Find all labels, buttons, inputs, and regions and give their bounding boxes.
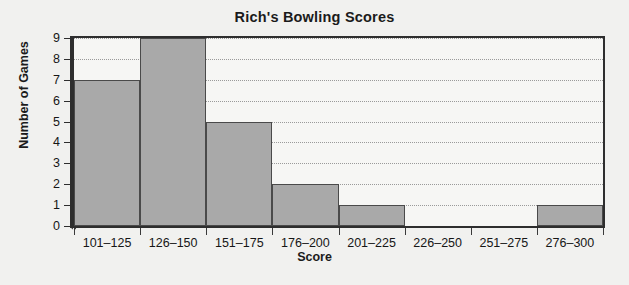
y-tick-mark bbox=[64, 38, 71, 39]
bar bbox=[537, 205, 603, 226]
bar bbox=[140, 38, 206, 226]
y-tick-label: 6 bbox=[42, 95, 60, 108]
x-tick-mark bbox=[405, 228, 406, 235]
x-tick-mark bbox=[74, 228, 75, 235]
y-tick-mark bbox=[64, 184, 71, 185]
y-tick-label: 5 bbox=[42, 116, 60, 129]
bowling-scores-histogram: Rich's Bowling Scores Number of Games 01… bbox=[0, 0, 629, 285]
x-tick-label: 276–300 bbox=[530, 236, 610, 250]
y-tick-mark bbox=[64, 59, 71, 60]
plot-area bbox=[72, 36, 605, 228]
x-axis-label: Score bbox=[0, 250, 629, 264]
y-tick-mark bbox=[64, 101, 71, 102]
x-tick-mark bbox=[140, 228, 141, 235]
bar bbox=[206, 122, 272, 226]
x-tick-mark bbox=[272, 228, 273, 235]
y-tick-mark bbox=[64, 163, 71, 164]
y-axis-label: Number of Games bbox=[17, 25, 31, 165]
y-tick-label: 8 bbox=[42, 53, 60, 66]
x-tick-mark bbox=[339, 228, 340, 235]
bar bbox=[339, 205, 405, 226]
x-tick-mark bbox=[206, 228, 207, 235]
x-tick-mark bbox=[603, 228, 604, 235]
y-tick-label: 3 bbox=[42, 157, 60, 170]
y-tick-mark bbox=[64, 80, 71, 81]
y-tick-mark bbox=[64, 205, 71, 206]
y-tick-label: 2 bbox=[42, 178, 60, 191]
y-tick-label: 9 bbox=[42, 32, 60, 45]
y-tick-label: 7 bbox=[42, 74, 60, 87]
bar bbox=[272, 184, 338, 226]
y-tick-label: 1 bbox=[42, 199, 60, 212]
bar bbox=[74, 80, 140, 226]
y-tick-mark bbox=[64, 142, 71, 143]
chart-title: Rich's Bowling Scores bbox=[0, 9, 629, 25]
x-tick-mark bbox=[537, 228, 538, 235]
y-tick-mark bbox=[64, 226, 71, 227]
y-tick-mark bbox=[64, 122, 71, 123]
x-tick-mark bbox=[471, 228, 472, 235]
y-tick-label: 0 bbox=[42, 220, 60, 233]
y-tick-label: 4 bbox=[42, 136, 60, 149]
